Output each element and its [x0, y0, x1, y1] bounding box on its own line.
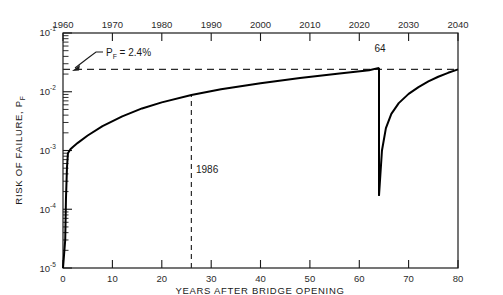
top-tick-label: 2020	[349, 19, 370, 30]
y-tick-label-1e-2: 10 -2	[39, 84, 56, 97]
figure-container: 1960 1970 1980 1990 2000 2010 2020 2030 …	[0, 0, 503, 295]
svg-text:10: 10	[39, 204, 50, 215]
x-tick-label: 70	[403, 273, 414, 284]
svg-text:10: 10	[39, 263, 50, 274]
svg-text:10: 10	[39, 86, 50, 97]
top-tick-label: 1970	[102, 19, 123, 30]
y-tick-label-1e-5: 10 -5	[39, 261, 56, 274]
top-axis-labels: 1960 1970 1980 1990 2000 2010 2020 2030 …	[52, 19, 468, 30]
x-tick-label: 0	[60, 273, 65, 284]
y-axis-labels: 10 -1 10 -2 10 -3 10 -4 10 -5	[39, 25, 56, 274]
x-tick-label: 20	[157, 273, 168, 284]
x-tick-label: 40	[255, 273, 266, 284]
pf-leader-line	[88, 52, 103, 58]
svg-text:-1: -1	[50, 25, 56, 32]
svg-text:-4: -4	[50, 202, 56, 209]
x-tick-label: 80	[453, 273, 464, 284]
top-tick-label: 2030	[398, 19, 419, 30]
pf-arrow-head	[72, 65, 80, 71]
axes-box	[63, 33, 458, 268]
y-tick-label-1e-3: 10 -3	[39, 143, 56, 156]
top-axis-ticks	[63, 33, 458, 41]
plot-frame	[63, 33, 458, 268]
inspection-year-label: 1986	[196, 164, 219, 175]
repair-year-label: 64	[374, 43, 386, 54]
y-axis-title: RISK OF FAILURE, PF	[13, 95, 26, 204]
svg-text:-3: -3	[50, 143, 56, 150]
svg-text:10: 10	[39, 27, 50, 38]
top-tick-label: 2040	[447, 19, 468, 30]
top-tick-label: 2000	[250, 19, 271, 30]
x-axis-title: YEARS AFTER BRIDGE OPENING	[175, 285, 344, 295]
x-tick-label: 30	[206, 273, 217, 284]
x-tick-label: 50	[305, 273, 316, 284]
x-tick-label: 10	[107, 273, 118, 284]
bottom-axis-ticks	[63, 260, 458, 268]
risk-curve-post-repair	[379, 69, 458, 195]
x-tick-label: 60	[354, 273, 365, 284]
pf-annotation: PF = 2.4%	[72, 47, 151, 71]
top-tick-label: 2010	[299, 19, 320, 30]
pf-arrow-shaft	[75, 58, 88, 68]
bottom-axis-labels: 0 10 20 30 40 50 60 70 80	[60, 273, 463, 284]
svg-text:-2: -2	[50, 84, 56, 91]
pf-annotation-label: PF = 2.4%	[106, 47, 151, 60]
svg-text:-5: -5	[50, 261, 56, 268]
y-tick-label-1e-4: 10 -4	[39, 202, 56, 215]
svg-text:10: 10	[39, 145, 50, 156]
top-tick-label: 1990	[201, 19, 222, 30]
risk-of-failure-chart: 1960 1970 1980 1990 2000 2010 2020 2030 …	[0, 0, 503, 295]
risk-curve-pre-repair	[63, 68, 379, 268]
y-tick-label-1e-1: 10 -1	[39, 25, 56, 38]
top-tick-label: 1980	[151, 19, 172, 30]
